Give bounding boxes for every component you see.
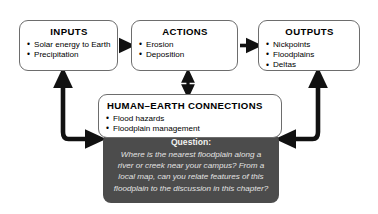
box-outputs-list: Nickpoints Floodplains Deltas bbox=[266, 40, 353, 71]
list-item: Precipitation bbox=[27, 50, 111, 60]
box-inputs-title: INPUTS bbox=[27, 26, 111, 38]
question-box: Question: Where is the nearest floodplai… bbox=[103, 133, 279, 203]
list-item: Erosion bbox=[139, 40, 231, 50]
question-label: Question: bbox=[112, 137, 270, 148]
box-actions-list: Erosion Deposition bbox=[139, 40, 231, 61]
arrow-question-to-inputs bbox=[63, 77, 96, 139]
box-human-earth-connections: HUMAN–EARTH CONNECTIONS Flood hazards Fl… bbox=[98, 94, 282, 138]
list-item: Solar energy to Earth bbox=[27, 40, 111, 50]
list-item: Nickpoints bbox=[266, 40, 353, 50]
geosystems-connection-diagram: INPUTS Solar energy to Earth Precipitati… bbox=[0, 0, 378, 214]
question-text: Where is the nearest floodplain along a … bbox=[112, 149, 270, 195]
box-outputs-title: OUTPUTS bbox=[266, 26, 353, 38]
box-human-earth-list: Flood hazards Floodplain management bbox=[106, 114, 275, 135]
box-inputs-list: Solar energy to Earth Precipitation bbox=[27, 40, 111, 61]
list-item: Deposition bbox=[139, 50, 231, 60]
list-item: Flood hazards bbox=[106, 114, 275, 124]
box-human-earth-title: HUMAN–EARTH CONNECTIONS bbox=[107, 100, 275, 112]
list-item: Deltas bbox=[266, 60, 353, 70]
arrow-question-to-outputs bbox=[285, 77, 318, 139]
list-item: Floodplains bbox=[266, 50, 353, 60]
box-actions: ACTIONS Erosion Deposition bbox=[131, 20, 238, 71]
box-outputs: OUTPUTS Nickpoints Floodplains Deltas bbox=[258, 20, 360, 71]
box-actions-title: ACTIONS bbox=[139, 26, 231, 38]
box-inputs: INPUTS Solar energy to Earth Precipitati… bbox=[19, 20, 118, 71]
list-item: Floodplain management bbox=[106, 124, 275, 134]
